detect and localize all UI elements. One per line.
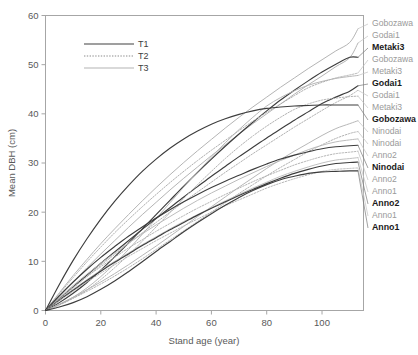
end-label-ninodai: Ninodai <box>372 138 401 148</box>
x-tick-label: 40 <box>151 317 162 328</box>
x-tick-label: 20 <box>96 317 107 328</box>
chart-figure: 0102030405060 020406080100 GobozawaGodai… <box>0 0 418 355</box>
end-label-godai1: Godai1 <box>372 78 402 88</box>
end-label-anno1: Anno1 <box>372 186 397 196</box>
end-label-anno2: Anno2 <box>372 150 397 160</box>
end-label-anno2: Anno2 <box>372 198 399 208</box>
legend-label-t3: T3 <box>138 63 149 73</box>
end-label-anno1: Anno1 <box>372 210 397 220</box>
x-tick-label: 60 <box>206 317 217 328</box>
x-tick-label: 80 <box>261 317 272 328</box>
y-tick-label: 10 <box>28 256 39 267</box>
x-tick-label: 0 <box>43 317 48 328</box>
end-label-metaki3: Metaki3 <box>372 102 402 112</box>
end-label-metaki3: Metaki3 <box>372 42 404 52</box>
legend-label-t1: T1 <box>138 39 149 49</box>
x-tick-label: 100 <box>314 317 330 328</box>
y-tick-label: 0 <box>33 305 38 316</box>
end-label-gobozawa: Gobozawa <box>372 54 413 64</box>
end-label-godai1: Godai1 <box>372 90 400 100</box>
line-chart: 0102030405060 020406080100 GobozawaGodai… <box>0 0 418 355</box>
end-label-ninodai: Ninodai <box>372 126 401 136</box>
end-label-godai1: Godai1 <box>372 30 400 40</box>
x-axis-title: Stand age (year) <box>169 335 240 346</box>
y-tick-label: 30 <box>28 157 39 168</box>
legend-label-t2: T2 <box>138 51 149 61</box>
end-label-anno1: Anno1 <box>372 222 399 232</box>
y-tick-label: 60 <box>28 10 39 21</box>
end-label-gobozawa: Gobozawa <box>372 114 416 124</box>
end-label-anno2: Anno2 <box>372 174 397 184</box>
y-tick-label: 40 <box>28 108 39 119</box>
y-axis-title: Mean DBH (cm) <box>6 129 17 197</box>
end-label-metaki3: Metaki3 <box>372 66 402 76</box>
end-label-ninodai: Ninodai <box>372 162 404 172</box>
end-label-gobozawa: Gobozawa <box>372 18 413 28</box>
y-tick-label: 20 <box>28 207 39 218</box>
y-tick-label: 50 <box>28 59 39 70</box>
